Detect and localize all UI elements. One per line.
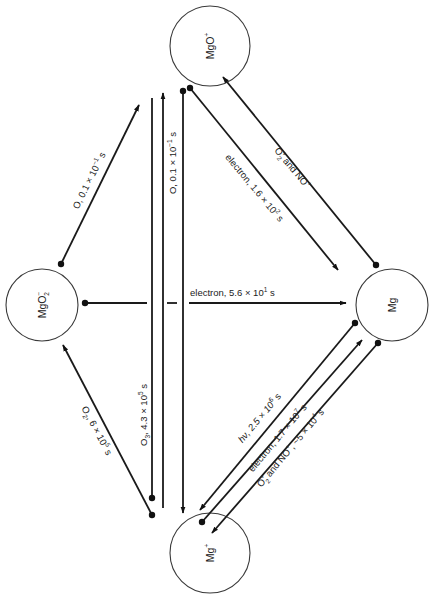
edge-mg-to-mg-plus-hv: hν, 2.5 × 106 s: [200, 320, 358, 510]
edge-label: electron, 5.6 × 101 s: [190, 286, 275, 298]
start-dot-icon: [149, 512, 155, 518]
edge-mgo2-to-mgo-plus: O, 0.1 × 10−1 s: [58, 105, 139, 267]
edge-label: O2+ and NO+: [271, 144, 314, 191]
edge-mgo2-to-mg-electron: electron, 5.6 × 101 s: [82, 286, 346, 306]
edge-mg-plus-to-mgo-plus: O, 0.1 × 10−1 s: [163, 93, 178, 508]
start-dot-icon: [58, 261, 64, 267]
arrow-line: [61, 105, 139, 264]
arrow-line: [200, 323, 355, 510]
edge-label: O, 0.1 × 10−1 s: [166, 132, 178, 194]
node-label: MgO+: [203, 33, 216, 60]
node-mg-plus: Mg+: [170, 513, 250, 593]
node-label: Mg: [386, 298, 398, 313]
start-dot-icon: [149, 495, 155, 501]
node-mgo2-minus: MgO−2: [6, 269, 78, 341]
start-dot-icon: [375, 340, 381, 346]
start-dot-icon: [352, 320, 358, 326]
reaction-diagram: MgO+ MgO−2 Mg Mg+ O, 0.1 × 10−1 s O, 0.1…: [0, 0, 434, 596]
edge-label: electron, 1.6 × 102 s: [223, 151, 287, 224]
edge-mgo-plus-to-mg-plus: [180, 88, 186, 513]
start-dot-icon: [373, 262, 379, 268]
arrow-line: [190, 88, 338, 270]
node-mgo-plus: MgO+: [170, 6, 250, 86]
edge-mgo-plus-to-mg-electron: electron, 1.6 × 102 s: [187, 85, 338, 270]
start-dot-icon: [180, 88, 186, 94]
node-label: MgO−2: [35, 292, 50, 319]
edge-label: O2, 6 × 105 s: [78, 403, 116, 457]
edge-mg-plus-to-mg-electron: electron, 1.7 × 107 s: [199, 340, 362, 525]
edge-o3-vertical: O3, 4.3 × 105 s: [137, 98, 155, 501]
node-mg: Mg: [356, 269, 428, 341]
start-dot-icon: [199, 519, 205, 525]
edge-label: O3, 4.3 × 105 s: [137, 384, 151, 446]
start-dot-icon: [82, 300, 88, 306]
start-dot-icon: [187, 85, 193, 91]
